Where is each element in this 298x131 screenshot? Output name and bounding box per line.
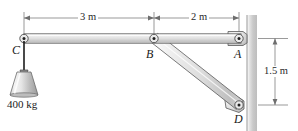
pin-joint-d <box>235 101 243 109</box>
label-point-c: C <box>12 44 20 56</box>
label-point-a: A <box>234 48 241 60</box>
pin-joint-b <box>150 34 158 42</box>
label-point-d: D <box>234 113 243 125</box>
member-ca-beam <box>24 32 247 46</box>
dimension-label-2m: 2 m <box>189 12 209 23</box>
dimension-label-1-5m: 1.5 m <box>262 66 290 77</box>
dimension-label-3m: 3 m <box>78 12 98 23</box>
pin-joint-a <box>235 34 243 42</box>
engineering-diagram-figure: C B A D 3 m 2 m 1.5 m 400 kg <box>0 0 298 131</box>
support-wall <box>247 15 257 131</box>
diagram-canvas <box>0 0 298 131</box>
load-mass-label: 400 kg <box>7 99 37 110</box>
label-point-b: B <box>146 48 153 60</box>
weight-block <box>10 72 38 95</box>
